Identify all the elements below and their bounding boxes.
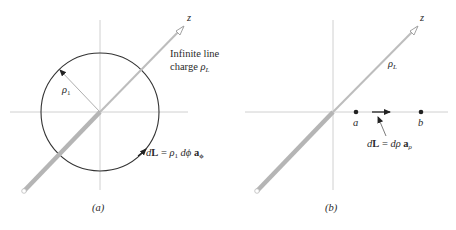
panel-b-point-a-label: a: [353, 117, 358, 129]
panel-b-caption: (b): [325, 202, 337, 214]
equals-sign: =: [158, 147, 169, 158]
panel-b: [245, 20, 448, 193]
panel-a-line-charge-lower: [24, 112, 100, 191]
panel-a-line-charge-end-cap: [22, 189, 27, 194]
panel-a-line-charge-label-line1: Infinite line: [170, 48, 219, 60]
panel-a-dl-arrow: [138, 149, 146, 156]
drho-term: dρ: [390, 138, 403, 149]
panel-b-dl-equation: dL = dρ aρ: [367, 138, 412, 153]
panel-b-dl-leader: [378, 117, 386, 136]
equals-sign: =: [379, 138, 390, 149]
panel-a-dl-equation: dL = ρ1 dϕ aϕ: [146, 147, 204, 162]
charge-word: charge: [170, 61, 198, 72]
panel-b-line-charge-lower: [257, 112, 333, 191]
panel-b-line-charge-label: ρL: [388, 58, 397, 73]
rho-subscript: 1: [67, 89, 71, 97]
panel-b-point-b-label: b: [418, 117, 423, 129]
panel-a-caption: (a): [92, 202, 104, 214]
unit-vector-subscript: ρ: [409, 143, 412, 151]
panel-a: [10, 20, 188, 193]
diagram-canvas: [0, 0, 456, 230]
panel-b-point-a: [354, 110, 359, 115]
rho-subscript: L: [205, 66, 209, 74]
unit-vector-subscript: ϕ: [199, 152, 203, 160]
panel-a-radius-label: ρ1: [62, 84, 71, 99]
rho-subscript: L: [393, 63, 397, 71]
panel-b-line-charge-upper: [333, 27, 417, 112]
panel-b-line-charge-end-cap: [255, 189, 260, 194]
panel-b-point-b: [419, 110, 424, 115]
panel-a-line-charge-label-line2: charge ρL: [170, 61, 209, 76]
dphi-term: dϕ: [178, 147, 194, 158]
panel-b-z-axis-label: z: [420, 12, 424, 24]
panel-a-z-axis-label: z: [187, 12, 191, 24]
